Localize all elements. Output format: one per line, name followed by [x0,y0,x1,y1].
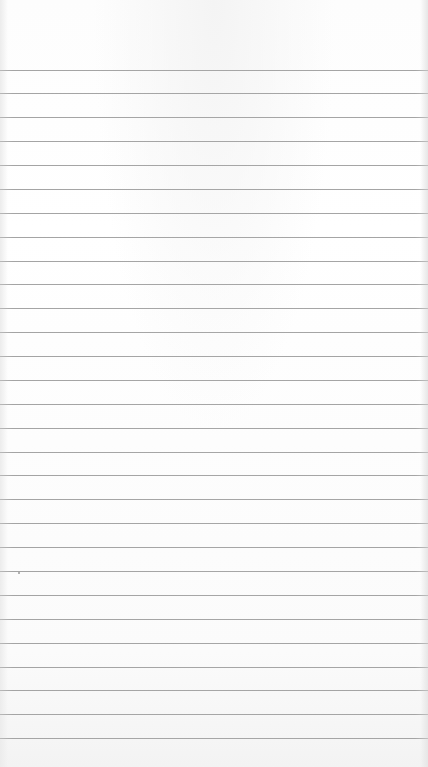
ruled-line [0,117,428,118]
ruled-line [0,475,428,476]
ruled-line [0,404,428,405]
ruled-line [0,213,428,214]
ruled-line [0,237,428,238]
ruled-line [0,332,428,333]
ruled-line [0,284,428,285]
ruled-paper [0,0,428,767]
ruled-line [0,738,428,739]
ruled-line [0,595,428,596]
right-edge-shadow [420,0,428,767]
ruled-line [0,165,428,166]
ruled-line [0,690,428,691]
left-edge-shadow [0,0,8,767]
paper-speck [18,572,20,574]
ruled-line [0,308,428,309]
ruled-line [0,70,428,71]
ruled-line [0,643,428,644]
ruled-line [0,141,428,142]
ruled-line [0,523,428,524]
ruled-line [0,261,428,262]
ruled-line [0,714,428,715]
ruled-line [0,619,428,620]
ruled-line [0,571,428,572]
ruled-line [0,380,428,381]
ruled-line [0,93,428,94]
ruled-line [0,452,428,453]
ruled-line [0,499,428,500]
ruled-line [0,667,428,668]
ruled-line [0,356,428,357]
ruled-line [0,428,428,429]
ruled-line [0,189,428,190]
ruled-line [0,547,428,548]
